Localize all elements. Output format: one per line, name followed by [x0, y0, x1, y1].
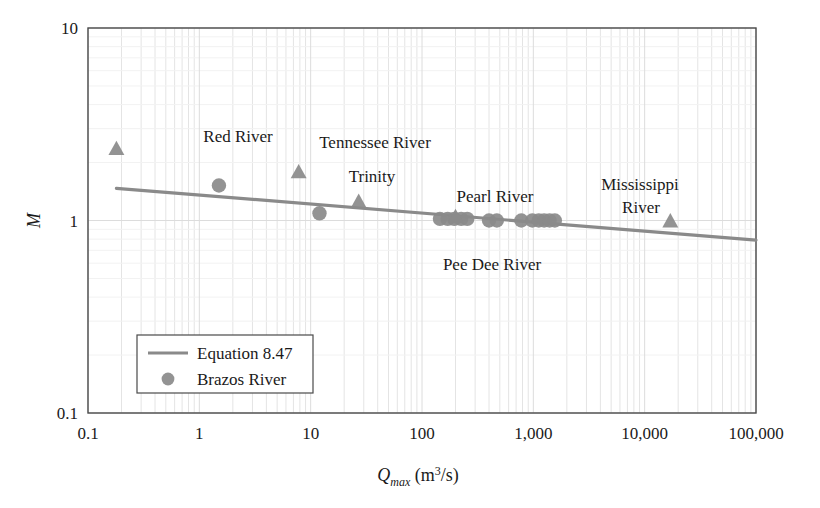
data-point-circle: [490, 213, 504, 227]
data-point-circle: [212, 178, 226, 192]
legend-circle-swatch: [162, 373, 175, 386]
x-tick-label: 0.1: [77, 424, 98, 443]
legend-entry-label: Equation 8.47: [197, 344, 293, 363]
annotation-label: Pearl River: [457, 187, 534, 206]
y-axis-title: M: [24, 212, 44, 229]
chart-canvas: 0.11101001,00010,000100,0000.1110MQmax (…: [0, 0, 820, 508]
data-point-circle: [312, 206, 326, 220]
x-axis-unit-close: /s): [441, 465, 459, 486]
y-tick-label: 0.1: [57, 404, 78, 423]
y-tick-label: 10: [61, 19, 78, 38]
annotation-label: River: [622, 198, 660, 217]
annotation-label: Tennessee River: [319, 133, 431, 152]
annotation-label: Red River: [203, 127, 273, 146]
x-tick-label: 1,000: [514, 424, 552, 443]
legend: Equation 8.47Brazos River: [137, 335, 313, 393]
x-axis-title-base: Q: [377, 465, 390, 485]
annotation-label: Pee Dee River: [443, 255, 542, 274]
x-axis-title: Qmax (m3/s): [377, 464, 459, 489]
x-tick-label: 10,000: [621, 424, 668, 443]
data-point-circle: [460, 212, 474, 226]
legend-entry-label: Brazos River: [197, 370, 287, 389]
chart-figure: 0.11101001,00010,000100,0000.1110MQmax (…: [0, 0, 820, 508]
annotation-label: Mississippi: [601, 175, 679, 194]
x-axis-title-sub: max: [390, 475, 411, 489]
x-tick-label: 1: [195, 424, 204, 443]
y-tick-label: 1: [70, 212, 79, 231]
annotation-label: Trinity: [349, 167, 396, 186]
x-axis-unit-open: (m: [410, 465, 435, 486]
x-tick-label: 100,000: [728, 424, 783, 443]
data-point-circle: [548, 213, 562, 227]
x-tick-label: 100: [409, 424, 435, 443]
x-tick-label: 10: [302, 424, 319, 443]
x-tick-labels: 0.11101001,00010,000100,000: [77, 424, 783, 443]
y-tick-labels: 0.1110: [57, 19, 78, 423]
